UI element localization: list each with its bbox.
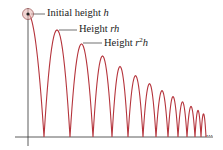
initial-position-marker <box>23 9 34 20</box>
label-r2h-text: Height <box>104 37 135 48</box>
ball-center-dot <box>26 12 29 15</box>
bouncing-ball-diagram: Initial height h Height rh Height r2h ..… <box>0 0 223 150</box>
label-initial-height: Initial height h <box>47 8 109 19</box>
label-rh-h: h <box>114 23 119 34</box>
label-initial-var: h <box>104 7 109 18</box>
label-height-rh: Height rh <box>79 24 119 35</box>
label-rh-text: Height <box>79 23 110 34</box>
label-r2h-h: h <box>143 37 148 48</box>
label-height-r2h: Height r2h <box>104 37 148 49</box>
continuation-dots: ... <box>206 129 213 138</box>
label-initial-text: Initial height <box>47 7 104 18</box>
